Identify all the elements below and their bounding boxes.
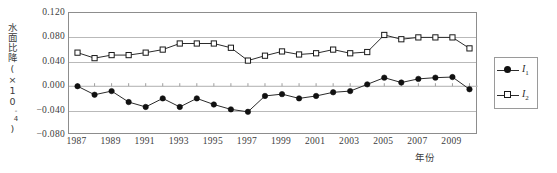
x-axis-tick-label: 2009 [441, 136, 461, 146]
x-axis-tick-label: 2003 [339, 136, 359, 146]
x-axis-tick-label: 1987 [66, 136, 86, 146]
legend-item-i1[interactable]: I1 [497, 63, 537, 77]
legend-label-i2: I2 [522, 88, 529, 102]
data-point-marker [450, 74, 455, 79]
data-point-marker [245, 58, 250, 63]
series-canvas [69, 13, 478, 135]
x-axis-tick-label: 2001 [305, 136, 325, 146]
legend-label-i2-sub: 2 [525, 94, 529, 102]
y-axis-tick-label: 0.040 [42, 56, 65, 66]
data-point-marker [331, 47, 336, 52]
x-axis-tick-label: 1997 [237, 136, 257, 146]
data-point-marker [416, 35, 421, 40]
data-point-marker [416, 76, 421, 81]
series-line-I1 [78, 77, 470, 112]
x-axis-tick-label: 1993 [169, 136, 189, 146]
data-point-marker [365, 82, 370, 87]
zero-axis-ticks [69, 83, 478, 86]
data-point-marker [382, 75, 387, 80]
data-point-marker [194, 96, 199, 101]
series-I2 [75, 32, 472, 63]
data-point-marker [245, 109, 250, 114]
legend-line-i2 [497, 90, 519, 100]
data-point-marker [314, 51, 319, 56]
data-point-marker [399, 37, 404, 42]
data-point-marker [467, 46, 472, 51]
x-axis-title: 年份 [415, 150, 435, 164]
data-point-marker [177, 41, 182, 46]
water-surface-slope-line-chart: 水面比降(×10-4) 0.1200.0800.0400.000−0.040−0… [0, 0, 557, 173]
data-point-marker [92, 92, 97, 97]
y-axis-unit-exponent: -4 [12, 107, 20, 123]
data-point-marker [382, 32, 387, 37]
data-point-marker [75, 84, 80, 89]
data-point-marker [194, 41, 199, 46]
x-axis-tick-label: 1999 [271, 136, 291, 146]
y-axis-tick-label: 0.080 [42, 31, 65, 41]
y-axis-unit-open: (×10 [7, 63, 18, 107]
legend-item-i2[interactable]: I2 [497, 88, 537, 102]
data-point-marker [126, 99, 131, 104]
plot-area [68, 12, 477, 134]
plot-inner [69, 13, 476, 133]
y-axis-tick-label: −0.080 [36, 129, 65, 139]
data-point-marker [228, 107, 233, 112]
data-point-marker [109, 52, 114, 57]
x-axis-tick-label: 2007 [407, 136, 427, 146]
data-point-marker [143, 50, 148, 55]
data-point-marker [75, 50, 80, 55]
data-point-marker [143, 104, 148, 109]
data-point-marker [279, 91, 284, 96]
data-point-marker [109, 88, 114, 93]
legend: I1 I2 [494, 57, 538, 109]
data-point-marker [262, 53, 267, 58]
data-point-marker [433, 35, 438, 40]
y-axis-tick-label: −0.040 [36, 105, 65, 115]
data-point-marker [296, 52, 301, 57]
data-point-marker [313, 93, 318, 98]
data-point-marker [433, 75, 438, 80]
legend-label-i1: I1 [522, 63, 529, 77]
y-axis-tick-labels: 0.1200.0800.0400.000−0.040−0.080 [20, 12, 68, 134]
data-point-marker [347, 88, 352, 93]
y-axis-tick-label: 0.120 [42, 7, 65, 17]
data-point-marker [160, 47, 165, 52]
data-point-marker [160, 96, 165, 101]
data-point-marker [228, 45, 233, 50]
x-axis-tick-label: 1991 [135, 136, 155, 146]
data-point-marker [92, 56, 97, 61]
data-point-marker [279, 49, 284, 54]
data-point-marker [177, 104, 182, 109]
data-point-marker [262, 93, 267, 98]
data-point-marker [365, 49, 370, 54]
data-point-marker [211, 102, 216, 107]
data-point-marker [126, 52, 131, 57]
open-square-icon [504, 91, 511, 98]
x-axis-tick-label: 2005 [373, 136, 393, 146]
data-point-marker [296, 96, 301, 101]
data-point-marker [330, 90, 335, 95]
y-axis-title-text: 水面比降(×10-4) [7, 23, 19, 134]
series-line-I2 [78, 35, 470, 61]
x-axis-tick-label: 1995 [203, 136, 223, 146]
x-axis-tick-label: 1989 [100, 136, 120, 146]
y-axis-tick-label: 0.000 [42, 80, 65, 90]
filled-circle-icon [504, 66, 511, 73]
data-point-marker [211, 41, 216, 46]
legend-line-i1 [497, 65, 519, 75]
legend-label-i1-sub: 1 [525, 69, 529, 77]
data-point-marker [450, 35, 455, 40]
data-point-marker [348, 51, 353, 56]
data-point-marker [467, 87, 472, 92]
y-axis-unit-close: ) [7, 123, 18, 134]
series-I1 [75, 74, 472, 114]
y-axis-title-label: 水面比降 [7, 23, 18, 63]
data-point-marker [399, 80, 404, 85]
x-axis-tick-labels: 1987198919911993199519971999200120032005… [68, 136, 477, 150]
